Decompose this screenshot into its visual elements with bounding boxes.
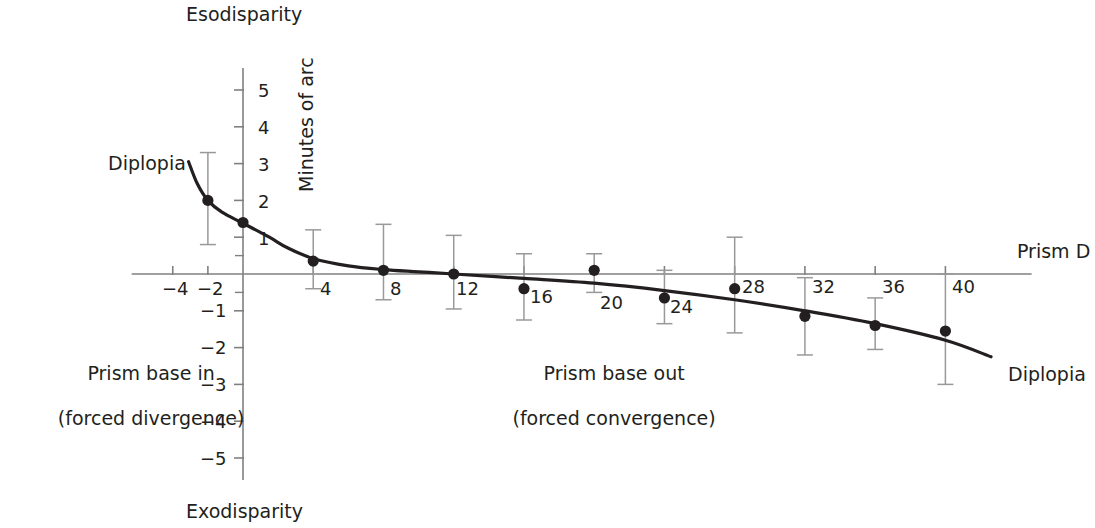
x-tick-label--2: −2: [197, 278, 224, 299]
x-tick-label-20: 20: [600, 292, 623, 313]
x-tick-label-40: 40: [952, 276, 975, 297]
x-tick-label-8: 8: [390, 278, 401, 299]
x-tick-label-12: 12: [456, 278, 479, 299]
data-point: [870, 320, 881, 331]
data-point: [589, 265, 600, 276]
y-tick-label-2: 2: [258, 191, 269, 212]
data-point: [729, 283, 740, 294]
x-tick-label--4: −4: [162, 278, 189, 299]
x-tick-label-24: 24: [670, 296, 693, 317]
data-point: [202, 195, 213, 206]
x-axis-title: Prism D: [1017, 240, 1090, 262]
data-point: [518, 283, 529, 294]
y-axis-title: Minutes of arc: [295, 57, 317, 192]
data-point: [940, 325, 951, 336]
data-point: [659, 292, 670, 303]
y-tick-label--2: −2: [200, 337, 227, 358]
data-point: [799, 311, 810, 322]
x-tick-label-32: 32: [812, 276, 835, 297]
data-point: [308, 256, 319, 267]
exodisparity-label: Exodisparity: [186, 500, 303, 522]
y-tick-label--5: −5: [200, 448, 227, 469]
y-tick-label-5: 5: [258, 80, 269, 101]
y-tick-label--4: −4: [200, 411, 227, 432]
diplopia-left-label: Diplopia: [108, 152, 186, 174]
prism-base-out-line2: (forced convergence): [512, 407, 715, 429]
x-tick-label-16: 16: [530, 286, 553, 307]
prism-base-out-line1: Prism base out: [544, 362, 685, 384]
diplopia-right-label: Diplopia: [1008, 363, 1086, 385]
x-tick-label-4: 4: [320, 278, 331, 299]
x-tick-label-28: 28: [742, 276, 765, 297]
data-point: [237, 217, 248, 228]
y-tick-label--1: −1: [200, 300, 227, 321]
y-tick-label-3: 3: [258, 154, 269, 175]
disparity-chart-figure: Esodisparity Exodisparity Minutes of arc…: [0, 0, 1095, 528]
x-tick-label-36: 36: [882, 276, 905, 297]
prism-base-out-label: Prism base out (forced convergence): [472, 340, 732, 452]
y-tick-label--3: −3: [200, 374, 227, 395]
y-tick-label-1: 1: [258, 228, 269, 249]
esodisparity-label: Esodisparity: [186, 3, 302, 25]
y-tick-label-4: 4: [258, 117, 269, 138]
prism-base-in-line1: Prism base in: [87, 362, 214, 384]
data-point: [378, 265, 389, 276]
